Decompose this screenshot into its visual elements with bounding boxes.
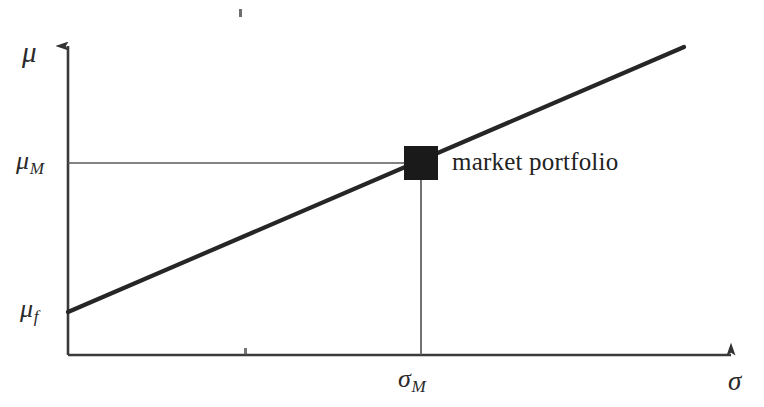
y-tick-mu-f-base: μ bbox=[20, 294, 33, 323]
capital-market-line bbox=[68, 47, 684, 312]
market-portfolio-marker bbox=[404, 146, 438, 180]
y-tick-mu-m-subscript: M bbox=[29, 159, 44, 178]
x-tick-label-sigma-m: σM bbox=[398, 366, 426, 395]
figure-canvas bbox=[0, 0, 764, 407]
y-tick-mu-f-subscript: f bbox=[33, 307, 39, 326]
y-axis-label: μ bbox=[22, 38, 37, 67]
market-portfolio-annotation: market portfolio bbox=[452, 148, 618, 177]
scan-speck-icon bbox=[239, 9, 242, 17]
x-tick-sigma-m-base: σ bbox=[398, 364, 411, 393]
scan-tick-icon bbox=[244, 348, 247, 355]
x-axis-label: σ bbox=[728, 368, 741, 395]
x-tick-sigma-m-subscript: M bbox=[411, 377, 426, 396]
capital-market-line-figure: μ σ μM μf σM market portfolio bbox=[0, 0, 764, 407]
y-tick-label-mu-m: μM bbox=[16, 148, 44, 177]
y-tick-label-mu-f: μf bbox=[20, 296, 39, 325]
y-tick-mu-m-base: μ bbox=[16, 146, 29, 175]
